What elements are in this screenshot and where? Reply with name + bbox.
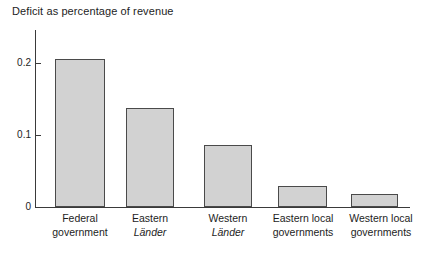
category-label-line1: Eastern	[132, 212, 168, 224]
category-label-line2: Länder	[184, 226, 272, 240]
category-label-eastern-local-governments: Eastern local governments	[262, 212, 344, 239]
category-label-line2: governments	[262, 226, 344, 240]
x-axis-baseline	[35, 207, 410, 208]
category-label-western-laender: Western Länder	[184, 212, 272, 239]
category-label-line1: Western local	[349, 212, 412, 224]
y-tick-0: 0	[35, 207, 41, 208]
category-label-line1: Eastern local	[273, 212, 334, 224]
category-label-line2: Länder	[106, 226, 194, 240]
bar-eastern-laender	[126, 108, 174, 207]
y-axis-line	[35, 30, 36, 208]
bar-western-laender	[204, 145, 252, 207]
category-label-line1: Federal	[62, 212, 98, 224]
y-tick-mark	[35, 207, 41, 208]
y-tick-0.2: 0.2	[35, 63, 41, 64]
category-label-eastern-laender: Eastern Länder	[106, 212, 194, 239]
y-tick-mark	[35, 63, 41, 64]
y-tick-0.1: 0.1	[35, 135, 41, 136]
y-tick-label: 0.1	[17, 128, 31, 141]
bar-eastern-local-governments	[278, 186, 327, 207]
category-label-line1: Western	[209, 212, 248, 224]
category-label-line2: governments	[339, 226, 423, 240]
plot-area: 0.2 0.1 0 Federal government Eastern Län…	[0, 0, 431, 254]
category-label-western-local-governments: Western local governments	[339, 212, 423, 239]
y-tick-label: 0.2	[17, 56, 31, 69]
y-tick-mark	[35, 135, 41, 136]
bar-western-local-governments	[351, 194, 398, 207]
bar-federal-government	[55, 59, 105, 207]
chart-figure: Deficit as percentage of revenue 0.2 0.1…	[0, 0, 431, 254]
